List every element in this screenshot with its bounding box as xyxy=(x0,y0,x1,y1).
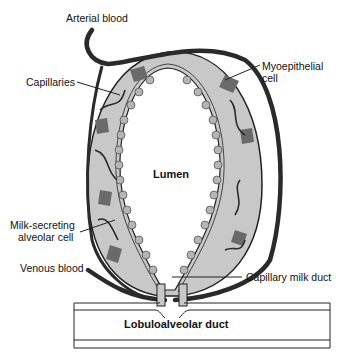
label-capillaries: Capillaries xyxy=(26,76,75,88)
label-myoepithelial-1: Myoepithelial xyxy=(262,60,323,72)
label-arterial-blood: Arterial blood xyxy=(66,12,128,24)
label-lobuloalveolar-duct: Lobuloalveolar duct xyxy=(124,318,229,330)
label-venous-blood: Venous blood xyxy=(20,262,84,274)
label-lumen: Lumen xyxy=(153,168,189,180)
label-milk-secreting-1: Milk-secreting xyxy=(10,219,75,231)
label-myoepithelial-2: cell xyxy=(262,72,278,84)
label-milk-secreting-2: alveolar cell xyxy=(18,231,73,243)
label-capillary-milk-duct: Capillary milk duct xyxy=(246,271,331,283)
